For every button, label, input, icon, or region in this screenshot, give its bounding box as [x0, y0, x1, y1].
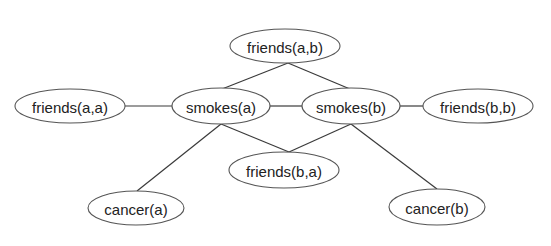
edge-smokes-b-to-friends-ba — [289, 124, 351, 152]
node-label: friends(b,a) — [246, 163, 322, 180]
edge-friends-ab-to-smokes-a — [222, 63, 288, 89]
node-smokes-b: smokes(b) — [302, 88, 400, 124]
nodes-layer: friends(a,b)friends(a,a)smokes(a)smokes(… — [15, 29, 533, 225]
node-cancer-a: cancer(a) — [88, 191, 184, 225]
node-smokes-a: smokes(a) — [172, 88, 270, 124]
node-label: cancer(b) — [405, 200, 468, 217]
node-cancer-b: cancer(b) — [389, 189, 485, 225]
node-friends-bb: friends(b,b) — [423, 89, 533, 123]
edge-friends-ab-to-smokes-b — [288, 63, 350, 89]
node-friends-ab: friends(a,b) — [230, 29, 340, 63]
node-label: friends(a,b) — [247, 39, 323, 56]
node-label: cancer(a) — [104, 201, 167, 218]
edge-smokes-a-to-friends-ba — [221, 124, 289, 152]
node-friends-aa: friends(a,a) — [15, 89, 125, 123]
node-label: smokes(b) — [316, 99, 386, 116]
node-label: friends(a,a) — [32, 99, 108, 116]
edge-smokes-a-to-cancer-a — [137, 124, 221, 191]
node-label: friends(b,b) — [440, 99, 516, 116]
node-label: smokes(a) — [186, 99, 256, 116]
edge-smokes-b-to-cancer-b — [351, 124, 437, 189]
node-friends-ba: friends(b,a) — [229, 152, 339, 188]
markov-network-diagram: friends(a,b)friends(a,a)smokes(a)smokes(… — [0, 0, 551, 246]
